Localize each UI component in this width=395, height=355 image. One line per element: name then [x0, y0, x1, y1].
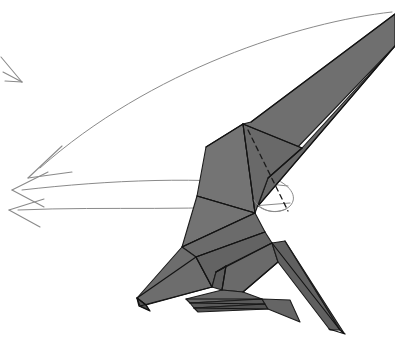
glider-diagram-canvas: Origami glider fold diagram Shaded polyh…	[0, 0, 395, 355]
diagram-root: Origami glider fold diagram Shaded polyh…	[0, 0, 395, 355]
